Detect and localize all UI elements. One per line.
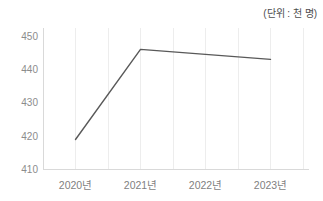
y-tick-label: 430 [21, 97, 38, 108]
x-tick-label: 2023년 [254, 179, 287, 191]
line-chart: (단위 : 천 명) 4504404304204102020년2021년2022… [0, 0, 323, 201]
y-tick-label: 420 [21, 131, 38, 142]
y-tick-label: 450 [21, 31, 38, 42]
x-tick-label: 2022년 [189, 179, 222, 191]
y-tick-label: 410 [21, 164, 38, 175]
y-tick-label: 440 [21, 64, 38, 75]
plot-area: 4504404304204102020년2021년2022년2023년 [0, 0, 323, 201]
x-tick-label: 2021년 [124, 179, 157, 191]
x-tick-label: 2020년 [59, 179, 92, 191]
